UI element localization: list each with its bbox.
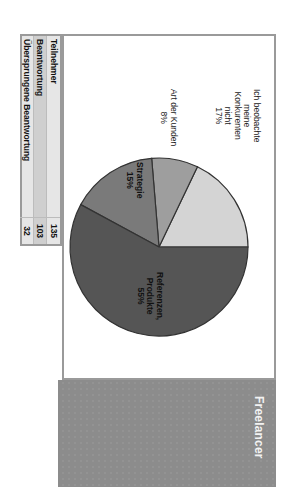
label-line: 15%	[125, 162, 135, 198]
table-row: Teilnehmer 135	[46, 36, 60, 244]
row-label: Teilnehmer	[47, 36, 60, 218]
label-line: 17%	[214, 89, 224, 142]
table-row: Übersprungene Beantwortung 32	[20, 36, 33, 244]
slice-label-strategie: Strategie 15%	[125, 162, 144, 198]
label-line: Referenzen,	[155, 272, 165, 320]
row-value: 135	[47, 218, 60, 244]
pie-chart-frame: Ich beobachte meine Konkurenten nicht 17…	[62, 34, 276, 380]
row-label: Übersprungene Beantwortung	[20, 36, 33, 218]
slice-label-referenzen: Referenzen, Produkte 55%	[136, 272, 165, 320]
label-line: 55%	[136, 272, 146, 320]
label-line: nicht	[223, 89, 233, 142]
title-band: Freelancer	[58, 380, 276, 487]
response-stats-table: Teilnehmer 135 Beantwortung 103 Überspru…	[20, 34, 62, 246]
label-line: Strategie	[135, 162, 145, 198]
label-line: meine	[242, 89, 252, 142]
row-value: 32	[20, 218, 33, 244]
label-line: 8%	[159, 89, 169, 146]
slice-label-konkurenten: Ich beobachte meine Konkurenten nicht 17…	[214, 89, 262, 142]
slice-label-kunden: Art der Kunden 8%	[159, 89, 178, 146]
label-line: Produkte	[145, 272, 155, 320]
label-line: Art der Kunden	[169, 89, 179, 146]
row-value: 103	[34, 218, 47, 244]
label-line: Konkurenten	[233, 89, 243, 142]
table-row: Beantwortung 103	[33, 36, 47, 244]
label-line: Ich beobachte	[252, 89, 262, 142]
rotated-chart-canvas: Freelancer Ich beobachte meine Konkurent…	[0, 0, 290, 502]
pie-chart	[64, 36, 274, 378]
row-label: Beantwortung	[34, 36, 47, 218]
chart-title: Freelancer	[252, 396, 266, 459]
